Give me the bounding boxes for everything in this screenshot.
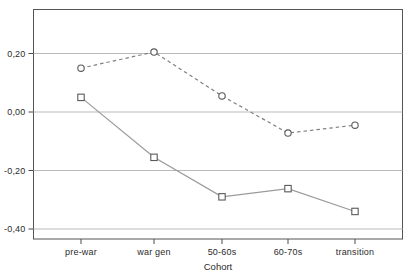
data-point-marker bbox=[78, 65, 84, 71]
y-tick-label: 0,00 bbox=[0, 107, 26, 117]
cohort-line-chart: 0,200,00-0,20-0,40 pre-warwar gen50-60s6… bbox=[0, 0, 413, 274]
data-point-marker bbox=[352, 208, 358, 214]
x-tick-label: transition bbox=[336, 247, 375, 257]
x-tick-label: war gen bbox=[137, 247, 170, 257]
x-tick-label: 60-70s bbox=[274, 247, 303, 257]
plot-area-border bbox=[34, 10, 403, 240]
data-point-marker bbox=[78, 94, 84, 100]
y-tick-label: -0,20 bbox=[0, 166, 26, 176]
data-point-marker bbox=[219, 93, 225, 99]
x-tick-label: 50-60s bbox=[208, 247, 237, 257]
data-point-marker bbox=[285, 185, 291, 191]
x-axis-title: Cohort bbox=[204, 261, 233, 272]
data-point-marker bbox=[151, 49, 157, 55]
data-point-marker bbox=[352, 122, 358, 128]
y-axis-ticks bbox=[29, 54, 34, 230]
data-point-marker bbox=[151, 154, 157, 160]
data-point-marker bbox=[285, 130, 291, 136]
x-axis-ticks bbox=[81, 239, 355, 244]
y-tick-label: -0,40 bbox=[0, 224, 26, 234]
x-tick-label: pre-war bbox=[65, 247, 97, 257]
plot-canvas bbox=[0, 0, 413, 274]
data-point-marker bbox=[219, 194, 225, 200]
y-tick-label: 0,20 bbox=[0, 49, 26, 59]
